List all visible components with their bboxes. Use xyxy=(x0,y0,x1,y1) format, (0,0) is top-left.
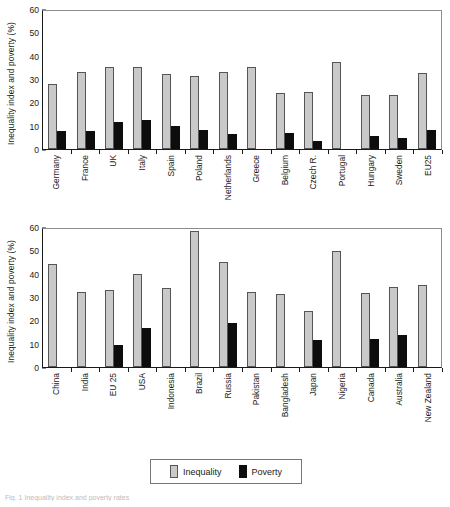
bar-group xyxy=(128,11,156,149)
x-tick-mark xyxy=(271,368,272,372)
x-axis-label-text: China xyxy=(52,373,60,395)
plot-frame-bottom xyxy=(42,228,442,368)
x-axis-label-text: USA xyxy=(138,373,146,390)
y-tick-label: 10 xyxy=(29,340,39,349)
y-tick-label: 20 xyxy=(29,317,39,326)
legend-item-poverty: Poverty xyxy=(239,465,283,478)
bar-inequality xyxy=(133,67,142,149)
bar-poverty xyxy=(142,120,151,149)
x-axis-label-text: Portugal xyxy=(338,155,346,186)
x-axis-label: Canada xyxy=(356,372,385,436)
x-axis-label: Indonesia xyxy=(156,372,185,436)
x-tick-mark xyxy=(356,368,357,372)
x-axis-label-text: Australia xyxy=(395,373,403,406)
x-axis-label-text: Poland xyxy=(195,155,203,181)
y-axis-label-bottom: Inequality index and poverty (%) xyxy=(2,222,20,382)
bar-poverty xyxy=(114,345,123,367)
x-tick-mark xyxy=(128,368,129,372)
bar-group xyxy=(185,229,213,367)
bar-poverty xyxy=(313,340,322,367)
bar-inequality xyxy=(219,262,228,367)
bar-poverty xyxy=(398,335,407,367)
y-tick-label: 50 xyxy=(29,29,39,38)
bar-groups-bottom xyxy=(43,229,441,367)
x-axis-label-text: Belgium xyxy=(281,155,289,185)
bar-poverty xyxy=(171,126,180,149)
bar-inequality xyxy=(247,67,256,149)
bar-group xyxy=(299,229,327,367)
x-axis-label-text: Italy xyxy=(138,155,146,170)
bar-inequality xyxy=(190,76,199,149)
x-axis-label-text: EU25 xyxy=(424,155,432,176)
x-axis-label-text: Bangladesh xyxy=(281,373,289,417)
bar-group xyxy=(242,229,270,367)
x-axis-label-text: Czech R. xyxy=(309,155,317,189)
x-tick-mark xyxy=(385,368,386,372)
x-axis-label: Australia xyxy=(385,372,414,436)
bar-group xyxy=(157,229,185,367)
x-tick-mark xyxy=(156,150,157,154)
bar-inequality xyxy=(332,251,341,367)
x-axis-label: Brazil xyxy=(185,372,214,436)
bar-inequality xyxy=(77,72,86,149)
bar-poverty xyxy=(142,328,151,367)
bar-inequality xyxy=(162,74,171,149)
y-tick-label: 20 xyxy=(29,99,39,108)
x-axis-label-text: Sweden xyxy=(395,155,403,185)
x-axis-labels-bottom: ChinaIndiaEU 25USAIndonesiaBrazilRussiaP… xyxy=(42,372,442,436)
x-tick-mark xyxy=(328,150,329,154)
chart-legend: Inequality Poverty xyxy=(150,459,302,484)
bar-group xyxy=(412,11,440,149)
x-axis-label: Hungary xyxy=(356,154,385,218)
bar-inequality xyxy=(361,293,370,367)
plot-area-top: 0102030405060 GermanyFranceUKItalySpainP… xyxy=(22,10,442,162)
x-tick-mark xyxy=(299,150,300,154)
x-tick-mark xyxy=(185,150,186,154)
bar-poverty xyxy=(199,130,208,149)
x-tick-mark xyxy=(71,368,72,372)
x-axis-label: Spain xyxy=(156,154,185,218)
x-axis-label: EU25 xyxy=(414,154,443,218)
bar-group xyxy=(356,11,384,149)
x-axis-label: Russia xyxy=(213,372,242,436)
x-axis-label-text: Greece xyxy=(252,155,260,182)
bar-group xyxy=(327,11,355,149)
x-tick-mark xyxy=(128,150,129,154)
x-axis-label: Germany xyxy=(42,154,71,218)
x-tick-mark xyxy=(213,150,214,154)
x-axis-label: Bangladesh xyxy=(271,372,300,436)
x-axis-label: UK xyxy=(99,154,128,218)
bar-poverty xyxy=(398,138,407,149)
bar-group xyxy=(100,11,128,149)
y-tick-label: 60 xyxy=(29,224,39,233)
x-tick-mark xyxy=(442,368,443,372)
bar-poverty xyxy=(57,131,66,149)
bar-inequality xyxy=(418,73,427,149)
y-tick-label: 60 xyxy=(29,6,39,15)
bar-inequality xyxy=(190,231,199,368)
bar-inequality xyxy=(77,292,86,367)
x-tick-mark xyxy=(413,368,414,372)
bar-group xyxy=(43,229,71,367)
y-axis-label-top: Inequality index and poverty (%) xyxy=(2,4,20,164)
bar-inequality xyxy=(162,288,171,367)
x-axis-label: India xyxy=(71,372,100,436)
bar-group xyxy=(71,11,99,149)
bar-group xyxy=(384,229,412,367)
x-axis-label: Nigeria xyxy=(328,372,357,436)
bar-group xyxy=(412,229,440,367)
x-axis-label: Greece xyxy=(242,154,271,218)
bar-inequality xyxy=(247,292,256,367)
legend-swatch-inequality-icon xyxy=(170,465,178,478)
figure-container: Inequality index and poverty (%) 0102030… xyxy=(0,0,450,507)
bar-inequality xyxy=(332,62,341,149)
bar-inequality xyxy=(304,311,313,367)
bar-group xyxy=(100,229,128,367)
bar-group xyxy=(43,11,71,149)
bar-poverty xyxy=(370,339,379,367)
bar-group xyxy=(327,229,355,367)
bar-inequality xyxy=(361,95,370,149)
x-axis-label: Belgium xyxy=(271,154,300,218)
x-axis-label-text: Indonesia xyxy=(166,373,174,409)
x-tick-mark xyxy=(271,150,272,154)
